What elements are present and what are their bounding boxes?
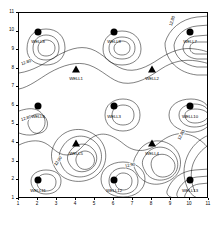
- x-tick-mark: [113, 198, 114, 200]
- y-tick-label: 7: [0, 84, 14, 89]
- x-tick-label: 7: [125, 202, 139, 207]
- y-tick-label: 10: [0, 28, 14, 33]
- x-tick-label: 2: [30, 202, 44, 207]
- x-tick-label: 1: [11, 202, 25, 207]
- triangle-icon: [72, 65, 80, 72]
- circle-icon: [35, 28, 42, 35]
- x-tick-mark: [170, 198, 171, 200]
- triangle-icon: [72, 140, 80, 147]
- circle-icon: [187, 28, 194, 35]
- well-marker-well13[interactable]: [187, 177, 194, 184]
- well-label: WELL11: [30, 188, 46, 193]
- well-label: WELL8: [31, 39, 45, 44]
- well-label: WELL5: [69, 150, 83, 155]
- x-tick-label: 8: [144, 202, 158, 207]
- x-tick-label: 3: [49, 202, 63, 207]
- well-marker-well2[interactable]: [148, 65, 156, 72]
- well-label: WELL4: [145, 150, 159, 155]
- x-tick-label: 5: [87, 202, 101, 207]
- circle-icon: [111, 177, 118, 184]
- circle-icon: [35, 177, 42, 184]
- x-tick-label: 9: [163, 202, 177, 207]
- x-tick-mark: [56, 198, 57, 200]
- x-tick-mark: [18, 198, 19, 200]
- well-marker-well12[interactable]: [111, 177, 118, 184]
- x-tick-label: 4: [68, 202, 82, 207]
- well-marker-well8[interactable]: [35, 28, 42, 35]
- well-label: WELL3: [107, 113, 121, 118]
- well-marker-well3[interactable]: [111, 103, 118, 110]
- well-marker-well11[interactable]: [35, 177, 42, 184]
- y-tick-label: 4: [0, 140, 14, 145]
- y-tick-label: 2: [0, 177, 14, 182]
- y-tick-label: 1: [0, 196, 14, 201]
- plot-area: WELL8WELL9WELL7WELL1WELL2WELL6WELL3WELL1…: [18, 12, 208, 198]
- x-tick-mark: [189, 198, 190, 200]
- well-marker-well6[interactable]: [35, 103, 42, 110]
- y-tick-label: 11: [0, 10, 14, 15]
- y-tick-label: 3: [0, 159, 14, 164]
- well-label: WELL10: [182, 113, 198, 118]
- well-marker-well10[interactable]: [187, 103, 194, 110]
- well-marker-well5[interactable]: [72, 140, 80, 147]
- x-tick-mark: [94, 198, 95, 200]
- well-label: WELL12: [106, 188, 122, 193]
- circle-icon: [35, 103, 42, 110]
- triangle-icon: [148, 65, 156, 72]
- circle-icon: [111, 28, 118, 35]
- x-tick-label: 6: [106, 202, 120, 207]
- y-tick-label: 6: [0, 103, 14, 108]
- x-tick-mark: [37, 198, 38, 200]
- circle-icon: [187, 177, 194, 184]
- triangle-icon: [148, 140, 156, 147]
- x-tick-mark: [132, 198, 133, 200]
- circle-icon: [187, 103, 194, 110]
- x-tick-label: 11: [201, 202, 215, 207]
- y-tick-label: 9: [0, 47, 14, 52]
- x-tick-label: 10: [182, 202, 196, 207]
- x-tick-mark: [151, 198, 152, 200]
- well-label: WELL7: [183, 39, 197, 44]
- circle-icon: [111, 103, 118, 110]
- well-label: WELL2: [145, 76, 159, 81]
- well-marker-well4[interactable]: [148, 140, 156, 147]
- well-label: WELL9: [107, 39, 121, 44]
- well-label: WELL6: [31, 113, 45, 118]
- well-label: WELL13: [182, 188, 198, 193]
- x-tick-mark: [208, 198, 209, 200]
- well-marker-well9[interactable]: [111, 28, 118, 35]
- well-marker-well7[interactable]: [187, 28, 194, 35]
- well-label: WELL1: [69, 76, 83, 81]
- x-tick-mark: [75, 198, 76, 200]
- contour-map-figure: 1234567891011 1234567891011: [0, 0, 222, 226]
- y-tick-label: 5: [0, 121, 14, 126]
- y-tick-label: 8: [0, 66, 14, 71]
- well-marker-well1[interactable]: [72, 65, 80, 72]
